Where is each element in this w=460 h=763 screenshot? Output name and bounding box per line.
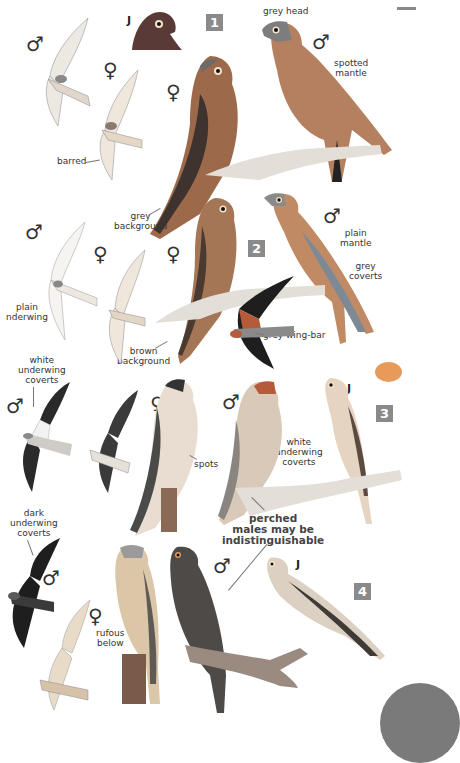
branch-3-illustration: [230, 468, 405, 518]
juvenile-head-illustration: [130, 10, 185, 52]
male-in-flight-pale-illustration: [25, 220, 90, 345]
label-dark: dark: [24, 508, 44, 518]
label-dark-underwing-coverts: dark underwing coverts: [10, 508, 58, 538]
label-white: white: [287, 437, 312, 447]
label-underwing: underwing: [10, 518, 58, 528]
section-badge-1: 1: [206, 14, 223, 31]
female-in-flight-spotted-illustration: [87, 248, 152, 368]
branch-4-illustration: [180, 640, 320, 690]
branch-illustration: [200, 140, 390, 180]
male-in-flight-white-underwing-illustration: [10, 380, 75, 495]
male-in-flight-grey-wing-bar-illustration: [214, 274, 304, 372]
label-white: white: [30, 355, 55, 365]
female-in-flight-rufous-illustration: [32, 598, 94, 713]
label-underwing: underwing: [18, 365, 66, 375]
leader-line: [33, 387, 34, 407]
page-corner-tab: [380, 683, 460, 763]
label-grey-head: grey head: [263, 6, 308, 16]
page-top-bar: [397, 7, 416, 10]
female-falcon-spotted-perched-illustration: [115, 378, 205, 538]
